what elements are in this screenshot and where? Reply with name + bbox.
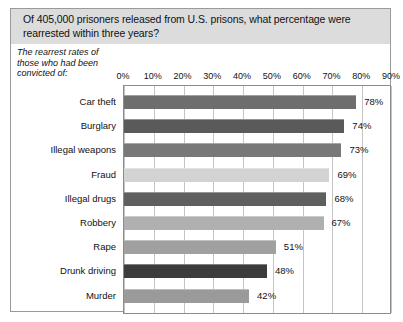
chart-figure: Of 405,000 prisoners released from U.S. … — [10, 8, 391, 312]
bar-container — [124, 216, 324, 230]
chart-row: Robbery67% — [124, 211, 390, 235]
category-label: Rape — [12, 235, 124, 259]
bar-container — [124, 119, 344, 133]
x-tick-label: 10% — [144, 71, 162, 81]
bar-container — [124, 95, 356, 109]
x-tick-label: 30% — [203, 71, 221, 81]
plot-area: Car theft78%Burglary74%Illegal weapons73… — [123, 85, 391, 314]
chart-row: Fraud69% — [124, 163, 390, 187]
category-label: Robbery — [12, 211, 124, 235]
bar — [124, 168, 329, 182]
bar-container — [124, 143, 341, 157]
bar — [124, 119, 344, 133]
category-label: Car theft — [12, 90, 124, 114]
x-tick-label: 90% — [382, 71, 400, 81]
chart-row: Murder42% — [124, 284, 390, 308]
bar-value-label: 48% — [270, 264, 294, 278]
bar-container — [124, 264, 267, 278]
bar-value-label: 74% — [347, 119, 371, 133]
x-tick-label: 40% — [233, 71, 251, 81]
category-label: Illegal weapons — [12, 138, 124, 162]
bar — [124, 192, 326, 206]
bar-container — [124, 192, 326, 206]
category-label: Fraud — [12, 163, 124, 187]
bar — [124, 95, 356, 109]
bar — [124, 240, 276, 254]
bar-container — [124, 168, 329, 182]
chart-row: Drunk driving48% — [124, 259, 390, 283]
x-tick-label: 80% — [352, 71, 370, 81]
x-tick-label: 70% — [322, 71, 340, 81]
bar-value-label: 78% — [359, 95, 383, 109]
bar — [124, 216, 324, 230]
category-label: Drunk driving — [12, 259, 124, 283]
bar — [124, 289, 249, 303]
chart-row: Illegal weapons73% — [124, 138, 390, 162]
x-tick-label: 0% — [116, 71, 129, 81]
bar-value-label: 73% — [344, 143, 368, 157]
bar-value-label: 51% — [279, 240, 303, 254]
bar-container — [124, 240, 276, 254]
x-tick-label: 20% — [174, 71, 192, 81]
bar-container — [124, 289, 249, 303]
chart-title: Of 405,000 prisoners released from U.S. … — [23, 13, 375, 40]
bar-value-label: 42% — [252, 289, 276, 303]
chart-header-band: Of 405,000 prisoners released from U.S. … — [11, 9, 390, 44]
chart-row: Car theft78% — [124, 90, 390, 114]
category-label: Murder — [12, 284, 124, 308]
category-label: Burglary — [12, 114, 124, 138]
bar — [124, 264, 267, 278]
x-tick-label: 60% — [293, 71, 311, 81]
bar-value-label: 68% — [329, 192, 353, 206]
x-tick-label: 50% — [263, 71, 281, 81]
category-label: Illegal drugs — [12, 187, 124, 211]
chart-row: Illegal drugs68% — [124, 187, 390, 211]
bar-value-label: 67% — [327, 216, 351, 230]
bar-value-label: 69% — [332, 168, 356, 182]
bar — [124, 143, 341, 157]
chart-row: Rape51% — [124, 235, 390, 259]
chart-row: Burglary74% — [124, 114, 390, 138]
x-axis-tick-labels: 0%10%20%30%40%50%60%70%80%90% — [113, 71, 392, 85]
chart-subtitle: The rearrest rates of those who had been… — [17, 47, 113, 79]
gridline — [391, 86, 392, 313]
